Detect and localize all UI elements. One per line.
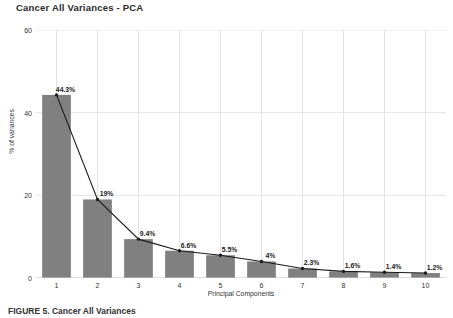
scree-plot-figure: Cancer All Variances - PCA 0204060 % of … (0, 0, 453, 318)
data-point-marker[interactable] (219, 254, 222, 257)
y-tick-label: 20 (24, 192, 32, 199)
bar-value-label: 4% (266, 252, 276, 259)
bar-value-label: 19% (100, 190, 114, 197)
bar-value-label: 44.3% (56, 86, 75, 93)
x-tick-label: 1 (55, 282, 59, 289)
x-tick-label: 2 (96, 282, 100, 289)
x-tick-label: 7 (301, 282, 305, 289)
x-tick-label: 5 (219, 282, 223, 289)
y-tick-label: 0 (28, 275, 32, 282)
data-point-marker[interactable] (55, 93, 58, 96)
data-point-marker[interactable] (383, 271, 386, 274)
bar[interactable] (247, 261, 276, 278)
x-tick-label: 6 (260, 282, 264, 289)
y-axis-title: % of variances (8, 87, 15, 177)
bar[interactable] (165, 251, 194, 278)
bar-value-label: 6.6% (181, 242, 197, 249)
x-tick-label: 3 (137, 282, 141, 289)
bar-value-label: 1.4% (386, 263, 402, 270)
chart-title: Cancer All Variances - PCA (16, 2, 143, 13)
data-point-marker[interactable] (260, 260, 263, 263)
figure-caption: FIGURE 5. Cancer All Variances (8, 306, 136, 318)
x-tick-label: 4 (178, 282, 182, 289)
x-tick-label: 8 (342, 282, 346, 289)
x-axis-title: Principal Components (36, 290, 446, 297)
plot-area: 44.3%19%9.4%6.6%5.5%4%2.3%1.6%1.4%1.2% (36, 30, 446, 278)
data-point-marker[interactable] (301, 267, 304, 270)
plot-canvas (36, 30, 446, 278)
data-point-marker[interactable] (178, 249, 181, 252)
bar-value-label: 1.2% (427, 264, 443, 271)
x-tick-label: 9 (383, 282, 387, 289)
y-tick-label: 40 (24, 109, 32, 116)
bar[interactable] (206, 255, 235, 278)
data-point-marker[interactable] (424, 271, 427, 274)
bar[interactable] (124, 239, 153, 278)
data-point-marker[interactable] (137, 237, 140, 240)
bar-value-label: 5.5% (222, 246, 238, 253)
bar-value-label: 2.3% (304, 259, 320, 266)
bar[interactable] (83, 199, 112, 278)
data-point-marker[interactable] (96, 198, 99, 201)
bar-value-label: 1.6% (345, 262, 361, 269)
y-axis-ticks: 0204060 (0, 30, 32, 278)
data-point-marker[interactable] (342, 270, 345, 273)
y-tick-label: 60 (24, 27, 32, 34)
bars (42, 95, 440, 278)
bar-value-label: 9.4% (140, 230, 156, 237)
x-tick-label: 10 (422, 282, 430, 289)
bar[interactable] (42, 95, 71, 278)
